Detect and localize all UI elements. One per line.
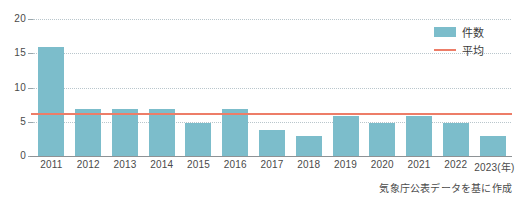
x-tick-label: 2019 [327, 159, 364, 170]
bar-slot [401, 12, 438, 157]
average-line [31, 113, 512, 115]
x-tick-label: 2020 [364, 159, 401, 170]
x-tick-label: 2014 [143, 159, 180, 170]
x-tick-label: 2011 [33, 159, 70, 170]
bar-slot [70, 12, 107, 157]
bar [149, 109, 175, 157]
bar [112, 109, 138, 157]
bar-slot [254, 12, 291, 157]
x-tick-label: 2021 [401, 159, 438, 170]
y-tick-label-10: 10 [0, 82, 26, 93]
bar-slot [364, 12, 401, 157]
x-tick-label: 2018 [290, 159, 327, 170]
bar-chart: 05101520 2011201220132014201520162017201… [0, 0, 522, 201]
bar-slot [33, 12, 70, 157]
x-tick-label: 2012 [70, 159, 107, 170]
chart-legend: 件数 平均 [434, 24, 506, 60]
x-tick-label: 2023(年) [474, 159, 511, 174]
y-tick-label-5: 5 [0, 116, 26, 127]
legend-label-kensuu: 件数 [462, 24, 484, 40]
x-tick-label: 2017 [254, 159, 291, 170]
bar-slot [217, 12, 254, 157]
legend-line-swatch-icon [434, 45, 456, 55]
x-tick-label: 2015 [180, 159, 217, 170]
legend-bar-swatch-icon [434, 27, 456, 37]
bar [38, 47, 64, 157]
legend-item-heikin: 平均 [434, 42, 506, 57]
bar-slot [143, 12, 180, 157]
x-axis-baseline [30, 156, 512, 157]
y-tick-label-20: 20 [0, 13, 26, 24]
bar [296, 136, 322, 157]
y-tick-label-0: 0 [0, 150, 26, 161]
bar [222, 109, 248, 157]
bar [443, 123, 469, 157]
bar [406, 116, 432, 157]
y-tick-label-15: 15 [0, 47, 26, 58]
bar [369, 123, 395, 157]
bar [259, 130, 285, 157]
bar-slot [290, 12, 327, 157]
legend-label-heikin: 平均 [462, 42, 484, 58]
bar-slot [180, 12, 217, 157]
bar [333, 116, 359, 157]
bar-slot [327, 12, 364, 157]
x-axis-labels: 2011201220132014201520162017201820192020… [33, 159, 511, 175]
x-tick-label: 2013 [107, 159, 144, 170]
bar [185, 123, 211, 157]
x-tick-label: 2016 [217, 159, 254, 170]
source-note: 気象庁公表データを基に作成 [379, 180, 512, 195]
x-tick-label: 2022 [437, 159, 474, 170]
bar-slot [107, 12, 144, 157]
bar [480, 136, 506, 157]
legend-item-kensuu: 件数 [434, 24, 506, 39]
bar [75, 109, 101, 157]
